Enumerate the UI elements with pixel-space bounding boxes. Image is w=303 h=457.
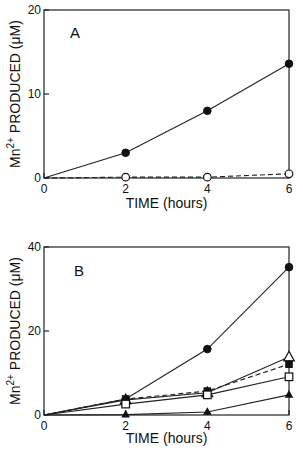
data-point-filled-square xyxy=(285,360,293,368)
data-point-filled-circle xyxy=(285,263,293,271)
y-tick-label: 20 xyxy=(28,3,42,17)
series-line xyxy=(44,64,289,178)
data-point-open-square xyxy=(285,373,293,381)
x-axis-label: TIME (hours) xyxy=(126,430,208,446)
series-line xyxy=(44,357,289,415)
data-point-filled-triangle xyxy=(121,410,130,418)
x-tick-label: 6 xyxy=(286,419,293,433)
data-point-filled-circle xyxy=(122,149,130,157)
y-tick-label: 40 xyxy=(28,240,42,254)
series-line xyxy=(44,174,289,178)
data-point-open-triangle xyxy=(284,351,295,361)
panel-b: 020400246TIME (hours)Mn2+ PRODUCED (μM)B xyxy=(5,240,294,446)
x-tick-label: 4 xyxy=(204,182,211,196)
panel-label: B xyxy=(74,262,84,279)
data-point-open-square xyxy=(204,391,212,399)
data-point-open-circle xyxy=(122,173,130,181)
y-tick-label: 20 xyxy=(28,324,42,338)
x-tick-label: 0 xyxy=(41,182,48,196)
panel-label: A xyxy=(70,24,80,41)
x-tick-label: 6 xyxy=(286,182,293,196)
panel-a: 010200246TIME (hours)Mn2+ PRODUCED (μM)A xyxy=(5,3,293,211)
data-point-filled-circle xyxy=(204,107,212,115)
series-line xyxy=(44,395,289,415)
x-tick-label: 2 xyxy=(122,182,129,196)
series-line xyxy=(44,267,289,415)
data-point-open-square xyxy=(122,400,130,408)
plot-frame xyxy=(44,10,289,178)
y-axis-label: Mn2+ PRODUCED (μM) xyxy=(5,257,23,405)
data-point-open-circle xyxy=(204,173,212,181)
data-point-filled-triangle xyxy=(285,390,294,398)
x-axis-label: TIME (hours) xyxy=(126,195,208,211)
data-point-open-circle xyxy=(285,170,293,178)
y-axis-label: Mn2+ PRODUCED (μM) xyxy=(5,20,23,168)
data-point-filled-circle xyxy=(204,345,212,353)
y-tick-label: 10 xyxy=(28,87,42,101)
figure: 010200246TIME (hours)Mn2+ PRODUCED (μM)A… xyxy=(0,0,303,457)
x-tick-label: 0 xyxy=(41,419,48,433)
data-point-filled-circle xyxy=(285,60,293,68)
